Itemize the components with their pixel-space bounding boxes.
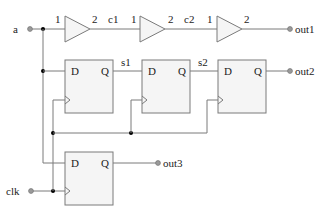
output-out2-label: out2 [295,65,315,77]
buffer-3[interactable] [217,16,242,42]
wire-clk-ff2 [131,100,142,133]
wire-a-trunk [43,29,65,163]
net-s2-label: s2 [198,56,208,68]
flipflop-4-q: Q [101,157,109,169]
buffer-2-out-pin: 2 [168,13,174,25]
output-out1-label: out1 [295,23,315,35]
output-out3-terminal[interactable] [156,161,161,166]
buffer-2-in-pin: 1 [131,13,137,25]
flipflop-2-d: D [148,65,156,77]
flipflop-1-d: D [71,65,79,77]
buffer-1-in-pin: 1 [55,13,61,25]
net-c2-label: c2 [184,13,194,25]
input-a-terminal[interactable] [28,27,33,32]
buffer-3-in-pin: 1 [207,13,213,25]
input-clk-label: clk [6,185,20,197]
buffer-1[interactable] [65,16,90,42]
flipflop-2-q: Q [178,65,186,77]
flipflop-3-q: Q [254,65,262,77]
flipflop-3-d: D [224,65,232,77]
buffer-3-out-pin: 2 [244,13,250,25]
net-c1-label: c1 [108,13,118,25]
output-out1-terminal[interactable] [288,27,293,32]
input-clk-terminal[interactable] [29,189,34,194]
wire-clk-ff3 [207,100,218,133]
output-out3-label: out3 [163,157,183,169]
input-a-label: a [13,23,18,35]
net-s1-label: s1 [121,56,131,68]
buffer-2[interactable] [140,16,165,42]
flipflop-4-d: D [71,157,79,169]
flipflop-1-q: Q [101,65,109,77]
output-out2-terminal[interactable] [288,69,293,74]
buffer-1-out-pin: 2 [92,13,98,25]
circuit-diagram: a 1 2 c1 1 2 c2 1 2 out1 D Q s1 D Q s2 D… [0,0,324,216]
